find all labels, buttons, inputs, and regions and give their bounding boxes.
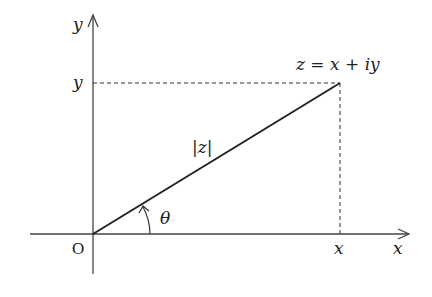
modulus-line [93, 83, 340, 234]
point-label: z = x + iy [295, 54, 380, 74]
y-axis-label: y [72, 14, 83, 34]
x-axis-label: x [393, 238, 403, 258]
x-projection-label: x [334, 238, 344, 258]
y-projection-label: y [72, 72, 83, 92]
complex-plane-diagram: y y O x x z = x + iy |z| θ [0, 0, 432, 297]
modulus-label: |z| [192, 137, 212, 157]
origin-label: O [72, 239, 84, 258]
angle-label: θ [160, 208, 170, 228]
